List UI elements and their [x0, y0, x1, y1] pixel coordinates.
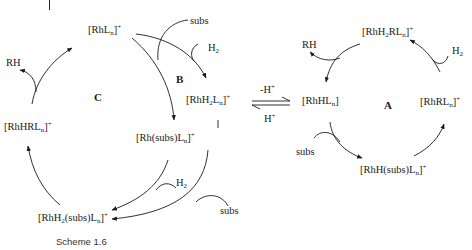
reagent-h2-right: H2	[452, 46, 463, 58]
arrow-rhhsubs-to-rhrl	[414, 124, 444, 156]
reagent-subs-bottom: subs	[220, 206, 239, 217]
species-rhh2subsln: [RhH2(subs)Ln]+	[38, 212, 108, 225]
equilibrium-forward-barb	[282, 97, 290, 101]
arrow-rhh2ln-to-rhh2subs	[112, 150, 208, 219]
scheme-caption: Scheme 1.6	[56, 236, 107, 247]
reagent-plus-h: H+	[264, 113, 276, 125]
cycle-label-c: C	[94, 92, 102, 103]
reagent-subs-right: subs	[296, 147, 315, 158]
reagent-rh-right: RH	[302, 40, 317, 51]
species-rhhsubsln: [RhH(subs)Ln]+	[360, 164, 426, 177]
h2-in-right	[433, 56, 448, 63]
species-rhsubsln: [Rh(subs)Ln]+	[136, 132, 195, 145]
species-rhhrln: [RhHRLn]+	[4, 121, 52, 134]
arrow-rhh2rl-to-rhhl	[326, 44, 360, 82]
arrow-rhh2subs-to-rhhrl	[28, 146, 60, 205]
cycle-label-b: B	[176, 74, 183, 85]
arrow-rhln-to-rhsubs	[132, 38, 174, 120]
arrow-rh-release-left	[20, 70, 36, 92]
arrow-rhsubs-to-rhh2subs	[112, 160, 168, 210]
arrow-rhrl-to-rhh2rl	[410, 40, 440, 72]
cycle-label-a: A	[384, 100, 392, 111]
reagent-h2-bottom: H2	[176, 178, 187, 190]
arrow-rhhl-to-rhhsubs	[330, 122, 362, 158]
reagent-rh-left: RH	[6, 58, 21, 69]
reagent-subs-top: subs	[190, 16, 209, 27]
species-rhh2ln: [RhH2Ln]+	[186, 94, 230, 107]
reagent-minus-h: -H+	[260, 84, 275, 96]
page-edge-tick	[49, 0, 50, 10]
equilibrium-reverse-barb	[252, 105, 260, 109]
arrow-rh-release-right	[310, 52, 340, 60]
reagent-h2-top: H2	[208, 43, 219, 55]
species-rhhln: [RhHLn]	[302, 96, 339, 108]
h2-in-top	[192, 44, 198, 62]
species-rhln: [RhLn]+	[88, 24, 121, 37]
h2-in-bottom	[156, 184, 176, 190]
subs-in-right	[314, 132, 340, 142]
arrow-rhln-to-rhh2ln	[136, 34, 206, 78]
species-rhh2rln: [RhH2RLn]+	[362, 26, 413, 39]
arrow-rhhrl-to-rhln	[32, 48, 72, 104]
species-rhrln: [RhRLn]+	[420, 96, 460, 109]
